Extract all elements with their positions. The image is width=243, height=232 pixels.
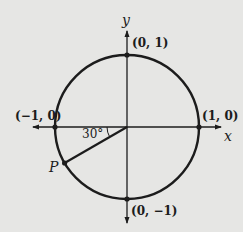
point-bottom bbox=[124, 196, 129, 201]
label-point-p: P bbox=[49, 160, 58, 174]
label-top-point: (0, 1) bbox=[132, 37, 168, 49]
point-p bbox=[62, 160, 67, 165]
y-axis-label: y bbox=[122, 13, 130, 27]
point-left bbox=[52, 124, 57, 129]
label-bottom-point: (0, −1) bbox=[131, 205, 177, 217]
point-right bbox=[196, 124, 201, 129]
unit-circle-diagram: y x (0, 1) (0, −1) (−1, 0) (1, 0) P 30° bbox=[0, 0, 243, 232]
angle-arc bbox=[107, 127, 110, 137]
label-left-point: (−1, 0) bbox=[15, 110, 61, 122]
x-axis-label: x bbox=[224, 129, 232, 143]
label-right-point: (1, 0) bbox=[202, 110, 238, 122]
point-top bbox=[124, 52, 129, 57]
angle-label: 30° bbox=[82, 128, 103, 140]
